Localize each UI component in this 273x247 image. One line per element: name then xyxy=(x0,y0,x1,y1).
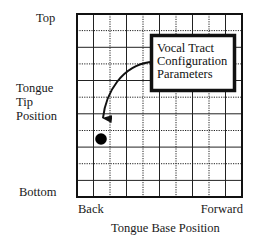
callout-line: Parameters xyxy=(157,68,235,81)
x-axis-left-label: Back xyxy=(78,203,104,216)
position-marker-dot-icon xyxy=(95,133,107,145)
y-axis-bottom-label: Bottom xyxy=(19,186,57,199)
y-axis-top-label: Top xyxy=(36,12,55,25)
y-axis-title-line: Tip xyxy=(16,96,33,109)
callout-label: Vocal Tract Configuration Parameters xyxy=(157,42,235,81)
x-axis-title: Tongue Base Position xyxy=(111,222,220,235)
x-axis-right-label: Forward xyxy=(201,203,243,216)
y-axis-title-line: Tongue xyxy=(16,82,53,95)
y-axis-title-line: Position xyxy=(16,110,57,123)
